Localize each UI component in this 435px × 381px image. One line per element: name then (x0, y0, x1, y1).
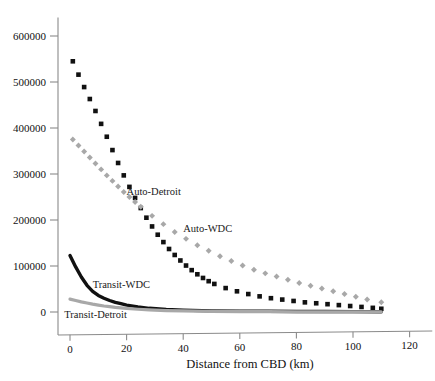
x-tick-label: 80 (291, 340, 303, 352)
x-axis: 020406080100120 (58, 331, 432, 355)
y-tick-label: 0 (41, 306, 47, 318)
data-series-group (70, 59, 384, 312)
chart-container: 0100000200000300000400000500000600000 02… (0, 0, 435, 381)
y-tick-label: 600000 (13, 30, 47, 42)
x-tick-label: 60 (234, 341, 246, 353)
y-tick-label: 200000 (13, 214, 47, 226)
y-tick-label: 100000 (13, 260, 47, 272)
series-label-auto-wdc: Auto-WDC (183, 223, 232, 234)
plot-area: 0100000200000300000400000500000600000 02… (13, 18, 432, 371)
series-label-transit-detroit: Transit-Detroit (64, 309, 127, 320)
x-tick-label: 120 (401, 339, 418, 351)
x-tick-label: 100 (345, 340, 362, 352)
y-tick-label: 500000 (13, 76, 47, 88)
y-axis: 0100000200000300000400000500000600000 (13, 18, 58, 335)
series-label-auto-detroit: Auto-Detroit (127, 186, 181, 197)
x-tick-label: 40 (178, 342, 190, 354)
distance-decay-chart: 0100000200000300000400000500000600000 02… (0, 0, 435, 381)
y-tick-label: 300000 (13, 168, 47, 180)
y-tick-label: 400000 (13, 122, 47, 134)
x-axis-title: Distance from CBD (km) (186, 357, 313, 371)
x-tick-label: 20 (121, 342, 133, 354)
series-labels-group: Auto-WDCAuto-DetroitTransit-WDCTransit-D… (64, 186, 232, 320)
x-tick-label: 0 (67, 343, 73, 355)
series-label-transit-wdc: Transit-WDC (93, 279, 150, 290)
